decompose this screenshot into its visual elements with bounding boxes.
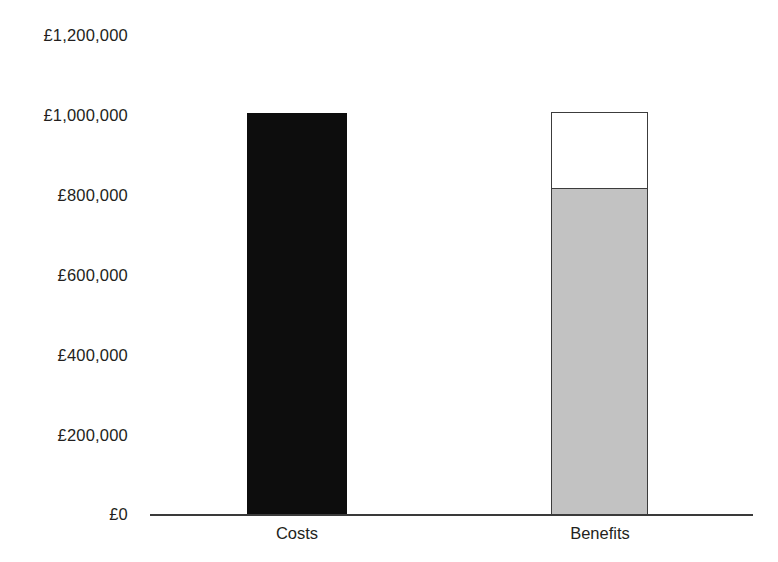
y-axis-tick-label-200000: £200,000 [58, 426, 128, 445]
y-axis-tick-label-400000: £400,000 [58, 346, 128, 365]
y-axis-tick-label-600000: £600,000 [58, 266, 128, 285]
y-axis-tick-label-800000: £800,000 [58, 186, 128, 205]
bar-chart: £1,200,000 £1,000,000 £800,000 £600,000 … [0, 0, 778, 562]
y-axis-tick-label-1000000: £1,000,000 [43, 106, 128, 125]
x-axis-line [150, 514, 753, 516]
x-axis-category-label-benefits: Benefits [570, 524, 630, 543]
y-axis-tick-label-1200000: £1,200,000 [43, 26, 128, 45]
x-axis-category-label-costs: Costs [276, 524, 318, 543]
bar-benefits-fill [551, 188, 648, 514]
y-axis-tick-label-0: £0 [109, 505, 128, 524]
bar-costs [247, 113, 347, 514]
